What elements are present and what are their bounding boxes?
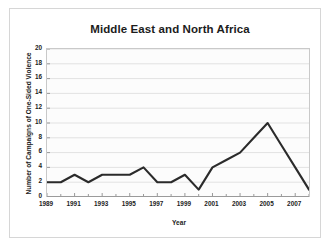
y-axis-label: Number of Campaigns of One-Sided Violenc… — [25, 44, 32, 204]
plot-area — [46, 48, 310, 197]
gridlines — [47, 49, 309, 182]
y-axis-ticks — [47, 49, 50, 197]
chart-title: Middle East and North Africa — [30, 23, 310, 35]
chart-figure: Middle East and North Africa Number of C… — [0, 0, 330, 246]
data-series-line — [47, 123, 309, 190]
line-chart-canvas — [47, 49, 309, 197]
x-axis-label: Year — [44, 219, 314, 226]
